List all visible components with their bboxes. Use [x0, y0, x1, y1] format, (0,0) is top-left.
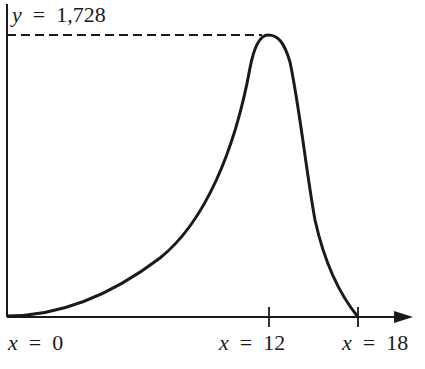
x-axis-arrow-icon [394, 311, 413, 323]
x18-label: x = 18 [342, 332, 408, 354]
curve [7, 35, 358, 317]
x0-label: x = 0 [8, 332, 63, 354]
x12-label: x = 12 [219, 332, 285, 354]
chart-canvas [0, 0, 425, 369]
peak-y-label: y = 1,728 [12, 4, 106, 26]
